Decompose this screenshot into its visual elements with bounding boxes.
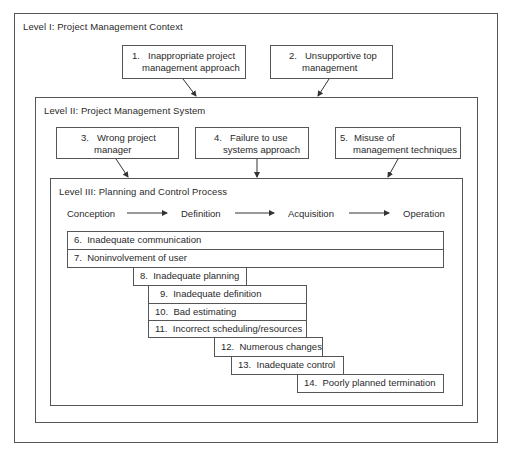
- cause-11-row: 11. Incorrect scheduling/resources: [148, 320, 307, 338]
- cause-8-row: 8. Inadequate planning: [133, 267, 247, 286]
- cause-3-number: 3.: [81, 132, 89, 144]
- cause-2-box: 2. Unsupportive top management: [270, 45, 393, 79]
- cause-8-number: 8.: [140, 270, 148, 281]
- cause-5-line1: Misuse of: [354, 132, 395, 144]
- phase-conception: Conception: [67, 208, 115, 219]
- cause-9-label: Inadequate definition: [173, 288, 261, 299]
- cause-9-row: 9. Inadequate definition: [148, 285, 307, 304]
- cause-13-number: 13.: [238, 359, 251, 370]
- cause-1-line1: Inappropriate project: [148, 50, 235, 62]
- cause-6-label: Inadequate communication: [87, 234, 201, 245]
- level-1-title: Level I: Project Management Context: [23, 21, 183, 32]
- cause-7-number: 7.: [74, 252, 82, 263]
- cause-8-label: Inadequate planning: [153, 270, 239, 281]
- cause-14-label: Poorly planned termination: [323, 377, 436, 388]
- cause-11-label: Incorrect scheduling/resources: [173, 323, 302, 334]
- cause-2-line2: management: [302, 62, 357, 74]
- cause-1-number: 1.: [132, 50, 140, 62]
- cause-14-row: 14. Poorly planned termination: [297, 374, 444, 393]
- cause-4-line1: Failure to use: [230, 132, 288, 144]
- cause-9-number: 9.: [160, 288, 168, 299]
- cause-7-label: Noninvolvement of user: [87, 252, 187, 263]
- cause-10-row: 10. Bad estimating: [148, 303, 307, 321]
- cause-5-number: 5.: [340, 132, 348, 144]
- cause-5-line2: management techniques: [353, 144, 457, 156]
- phase-acquisition: Acquisition: [288, 208, 334, 219]
- cause-2-number: 2.: [289, 50, 297, 62]
- level-2-title: Level II: Project Management System: [44, 105, 205, 116]
- level-3-title: Level III: Planning and Control Process: [59, 186, 227, 197]
- cause-4-box: 4. Failure to use systems approach: [195, 127, 309, 159]
- cause-12-label: Numerous changes: [240, 341, 322, 352]
- phase-operation: Operation: [403, 208, 445, 219]
- cause-2-line1: Unsupportive top: [305, 50, 377, 62]
- cause-13-label: Inadequate control: [257, 359, 336, 370]
- cause-10-number: 10.: [155, 306, 168, 317]
- cause-7-row: 7. Noninvolvement of user: [67, 249, 444, 268]
- cause-12-row: 12. Numerous changes: [214, 337, 323, 357]
- cause-3-box: 3. Wrong project manager: [56, 127, 179, 159]
- cause-1-box: 1. Inappropriate project management appr…: [122, 45, 246, 79]
- phase-definition: Definition: [181, 208, 221, 219]
- cause-12-number: 12.: [221, 341, 234, 352]
- cause-6-number: 6.: [74, 234, 82, 245]
- cause-6-row: 6. Inadequate communication: [67, 231, 444, 250]
- cause-4-number: 4.: [214, 132, 222, 144]
- cause-3-line2: manager: [94, 144, 132, 156]
- cause-10-label: Bad estimating: [174, 306, 237, 317]
- cause-11-number: 11.: [155, 323, 168, 334]
- cause-1-line2: management approach: [142, 62, 240, 74]
- cause-3-line1: Wrong project: [97, 132, 156, 144]
- cause-4-line2: systems approach: [223, 144, 300, 156]
- cause-13-row: 13. Inadequate control: [231, 356, 344, 375]
- cause-5-box: 5. Misuse of management techniques: [335, 127, 461, 159]
- cause-14-number: 14.: [304, 377, 317, 388]
